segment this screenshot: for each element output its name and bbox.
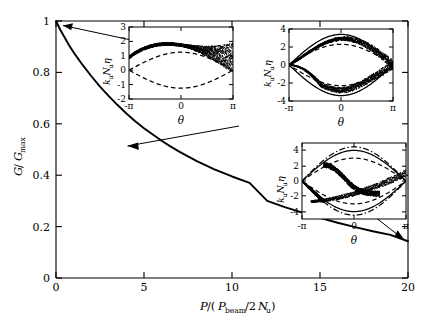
inset-y-tick-label: 0 <box>120 65 126 75</box>
y-label-slash: / <box>11 164 25 168</box>
inset-y-tick-label: 1 <box>120 51 126 61</box>
inset-x-tick-label: 0 <box>178 101 184 111</box>
inset-y-label-eta: η <box>101 58 112 64</box>
inset-3-y-tick-labels: -4 -2 0 2 4 <box>290 145 299 217</box>
x-tick-label: 5 <box>141 281 148 294</box>
inset-y-tick-label: -4 <box>290 207 299 217</box>
inset-y-tick-label: 0 <box>293 176 299 186</box>
inset-y-tick-label: -2 <box>277 78 286 88</box>
x-label-slash-2: /2 <box>245 299 256 313</box>
inset-y-tick-label: 4 <box>280 24 286 34</box>
inset-1: -2 -1 0 1 2 3 -π 0 π k u N u η θ <box>101 22 236 126</box>
inset-y-tick-label: 0 <box>280 60 286 70</box>
main-x-axis-label: P /( P beam /2 N u ) <box>199 299 276 315</box>
inset-3-y-axis-label: k u N u η <box>275 176 289 203</box>
inset-1-y-axis-label: k u N u η <box>101 58 115 85</box>
inset-y-tick-label: 3 <box>120 22 126 32</box>
inset-y-tick-label: 2 <box>120 36 126 46</box>
inset-2-x-tick-labels: -π 0 π <box>285 103 397 113</box>
x-label-paren-open: /( <box>207 299 215 313</box>
inset-y-tick-label: -1 <box>117 80 126 90</box>
inset-y-tick-label: 2 <box>293 161 299 171</box>
y-tick-label: 0 <box>43 272 50 285</box>
main-y-tick-labels: 0 0.2 0.4 0.6 0.8 1 <box>33 15 51 285</box>
inset-1-y-tick-labels: -2 -1 0 1 2 3 <box>117 22 126 104</box>
y-tick-label: 0.2 <box>33 221 51 234</box>
inset-x-tick-label: π <box>390 103 396 113</box>
inset-2-x-axis-label: θ <box>338 116 345 128</box>
inset-3: -4 -2 0 2 4 -π 0 π k u N u η θ <box>275 143 409 246</box>
inset-y-tick-label: 4 <box>293 145 299 155</box>
inset-x-tick-label: π <box>403 221 409 231</box>
arrow-to-inset-2 <box>128 126 240 150</box>
x-tick-label: 15 <box>313 281 327 294</box>
inset-2-y-tick-labels: -4 -2 0 2 4 <box>277 24 286 106</box>
inset-y-tick-label: 2 <box>280 42 286 52</box>
y-tick-label: 0.4 <box>33 169 51 182</box>
inset-y-label-eta: η <box>275 176 286 182</box>
figure-svg: 0 0.2 0.4 0.6 0.8 1 0 5 10 15 20 P /( P … <box>0 0 432 335</box>
y-tick-label: 1 <box>43 15 50 28</box>
inset-3-x-tick-labels: -π 0 π <box>298 221 410 231</box>
inset-y-label-eta: η <box>262 60 273 66</box>
figure-root: 0 0.2 0.4 0.6 0.8 1 0 5 10 15 20 P /( P … <box>0 0 432 335</box>
x-label-paren-close: ) <box>271 299 276 313</box>
y-tick-label: 0.8 <box>33 66 51 79</box>
inset-2-y-axis-label: k u N u η <box>262 60 276 87</box>
x-tick-label: 20 <box>401 281 415 294</box>
inset-3-x-axis-label: θ <box>351 234 358 246</box>
inset-1-x-tick-labels: -π 0 π <box>125 101 237 111</box>
inset-x-tick-label: π <box>230 101 236 111</box>
inset-x-tick-label: -π <box>285 103 294 113</box>
inset-x-tick-label: 0 <box>351 221 357 231</box>
inset-1-x-axis-label: θ <box>178 114 185 126</box>
inset-x-tick-label: -π <box>125 101 134 111</box>
main-y-axis-label: G / G max <box>11 136 27 176</box>
x-tick-label: 0 <box>53 281 60 294</box>
inset-x-tick-label: 0 <box>338 103 344 113</box>
y-label-max-sub: max <box>18 136 27 153</box>
y-tick-label: 0.6 <box>33 118 51 131</box>
x-label-beam-sub: beam <box>225 306 246 315</box>
inset-2: -4 -2 0 2 4 -π 0 π k u N u η θ <box>262 24 396 128</box>
main-x-tick-labels: 0 5 10 15 20 <box>53 281 416 294</box>
inset-y-tick-label: -2 <box>290 191 299 201</box>
x-tick-label: 10 <box>225 281 239 294</box>
inset-x-tick-label: -π <box>298 221 307 231</box>
